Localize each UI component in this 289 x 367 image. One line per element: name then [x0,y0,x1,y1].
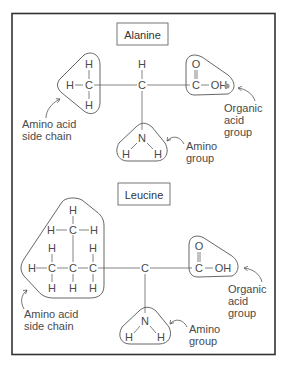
leucine-title: Leucine [125,189,164,201]
leucine-c-top: C [69,224,77,236]
leucine-c1-h-up: H [48,242,56,254]
leucine-h-top: H [69,204,77,216]
leucine-acid-label-2: acid [228,295,248,307]
alanine-alpha-h: H [138,58,146,70]
alanine-side-c: C [85,79,93,91]
alanine-acid-o: O [192,58,201,70]
leucine-panel: Leucine H H C H H H H C C C H [21,183,267,347]
leucine-c3-h-up: H [89,242,97,254]
alanine-oh-dot [224,83,229,88]
leucine-acid-c: C [195,262,203,274]
alanine-side-h-top: H [85,58,93,70]
leucine-acid-o: O [195,240,204,252]
alanine-acid-label-1: Organic [224,102,263,114]
leucine-side-chain-label-1: Amino acid [24,308,78,320]
leucine-acid-label-3: group [228,307,256,319]
leucine-h-top-left: H [47,224,55,236]
alanine-title: Alanine [124,29,161,41]
alanine-side-h-bottom: H [85,99,93,111]
leucine-acid-oh: OH [215,262,232,274]
alanine-acid-label-2: acid [224,114,244,126]
leucine-h-left: H [28,262,36,274]
alanine-side-chain-outline [58,53,101,114]
alanine-nh-left: H [122,148,130,160]
leucine-amino-label-1: Amino [189,323,220,335]
alanine-side-h-left: H [66,79,74,91]
leucine-c3-h-down: H [89,282,97,294]
alanine-panel: Alanine H C H H C H O C OH N H H [22,23,263,164]
leucine-side-chain-label-2: side chain [24,320,74,332]
alanine-acid-c: C [192,79,200,91]
leucine-c1: C [48,262,56,274]
alanine-amino-label-2: group [186,152,214,164]
alanine-acid-label-3: group [224,126,252,138]
leucine-h-top-right: H [90,224,98,236]
alanine-nh-right: H [154,148,162,160]
alanine-side-chain-label-2: side chain [22,130,72,142]
alanine-alpha-c: C [138,79,146,91]
leucine-c1-h-down: H [48,282,56,294]
amino-acid-diagram: Alanine H C H H C H O C OH N H H [0,0,289,367]
leucine-nh-left: H [125,331,133,343]
alanine-n: N [138,132,146,144]
leucine-c2-h-down: H [69,282,77,294]
leucine-n: N [141,315,149,327]
leucine-acid-label-1: Organic [228,283,267,295]
leucine-c2: C [69,262,77,274]
leucine-alpha-c: C [141,262,149,274]
leucine-nh-right: H [157,331,165,343]
leucine-c3: C [89,262,97,274]
leucine-amino-label-2: group [189,335,217,347]
alanine-amino-label-1: Amino [186,140,217,152]
alanine-side-chain-label-1: Amino acid [22,118,76,130]
